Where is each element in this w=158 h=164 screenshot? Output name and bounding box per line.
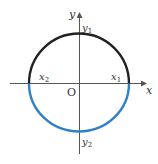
y-axis-label: y	[68, 8, 76, 21]
origin-label: O	[67, 86, 76, 99]
x-axis-label: x	[146, 84, 153, 97]
diagram-svg: y x O y1 y2 x2 x1	[0, 0, 158, 164]
x2-label: x2	[39, 71, 49, 84]
x1-label: x1	[111, 71, 121, 84]
y2-label: y2	[81, 136, 92, 149]
diagram-canvas: y x O y1 y2 x2 x1	[0, 0, 158, 164]
